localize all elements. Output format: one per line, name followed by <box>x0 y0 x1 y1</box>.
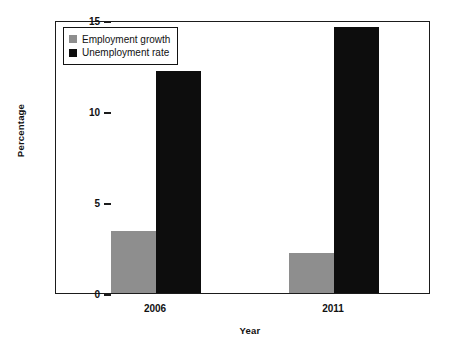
y-axis-tick-label: 0 <box>94 289 100 301</box>
legend-label: Employment growth <box>82 33 170 46</box>
x-axis-title: Year <box>55 325 445 336</box>
bar <box>334 27 379 293</box>
y-axis-title: Percentage <box>15 76 26 186</box>
x-axis-tick-label: 2006 <box>144 303 166 314</box>
y-axis-tick-mark <box>104 203 111 205</box>
y-axis-tick-label: 15 <box>89 16 100 28</box>
bar <box>111 231 156 293</box>
bar-chart-figure: Percentage 051015 20062011 Year Employme… <box>0 0 457 350</box>
legend-swatch-icon <box>69 35 77 43</box>
y-axis-tick-mark <box>104 294 111 296</box>
y-axis-tick-mark <box>104 112 111 114</box>
y-axis-tick-label: 5 <box>94 198 100 210</box>
x-axis-tick-label: 2011 <box>322 303 344 314</box>
legend-entry: Employment growth <box>69 33 170 46</box>
bar <box>156 71 201 293</box>
y-axis-tick-mark <box>104 21 111 23</box>
legend-entry: Unemployment rate <box>69 46 170 59</box>
legend-label: Unemployment rate <box>82 46 169 59</box>
y-axis-tick-label: 10 <box>89 107 100 119</box>
legend-swatch-icon <box>69 49 77 57</box>
bar <box>289 253 334 293</box>
chart-legend: Employment growthUnemployment rate <box>63 27 178 65</box>
